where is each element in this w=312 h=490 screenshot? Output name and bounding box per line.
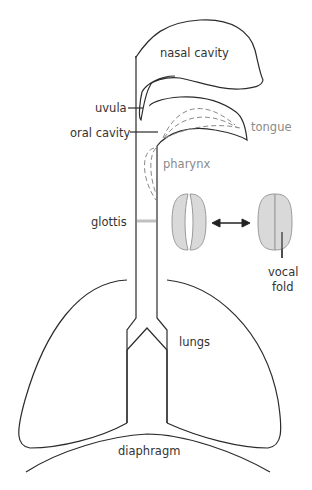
vocal-folds-closed	[258, 194, 292, 250]
label-lungs: lungs	[179, 335, 210, 349]
pharynx-dashed-2	[151, 148, 157, 196]
pharynx-dashed-1	[144, 148, 156, 200]
trachea-left-wall	[127, 56, 136, 423]
trachea-right-wall	[157, 146, 167, 423]
left-lung	[19, 280, 127, 448]
label-fold: fold	[272, 280, 294, 294]
right-lung	[167, 280, 281, 448]
label-pharynx: pharynx	[163, 157, 210, 171]
label-nasal-cavity: nasal cavity	[160, 46, 229, 60]
label-vocal: vocal	[268, 265, 298, 279]
tongue-dashed-2	[164, 117, 238, 138]
label-tongue: tongue	[251, 120, 292, 134]
label-uvula: uvula	[95, 101, 127, 115]
tongue-shape	[150, 97, 247, 146]
label-oral-cavity: oral cavity	[70, 126, 131, 140]
bronchus-inner	[127, 328, 167, 423]
diagram-canvas: nasal cavity uvula oral cavity tongue ph…	[0, 0, 312, 490]
double-arrow-icon	[212, 219, 250, 227]
nasal-cavity-shape	[136, 20, 263, 120]
label-glottis: glottis	[91, 215, 127, 229]
vocal-folds-open	[172, 194, 206, 250]
label-diaphragm: diaphragm	[118, 444, 180, 458]
speech-organs-diagram: nasal cavity uvula oral cavity tongue ph…	[0, 0, 312, 490]
